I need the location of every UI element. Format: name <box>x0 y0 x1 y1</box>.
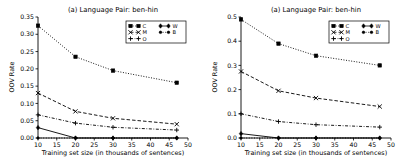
y-tick-label: 0.4 <box>227 37 237 44</box>
y-tick-label: 0.30 <box>20 30 34 37</box>
x-tick-label: 35 <box>331 141 339 148</box>
x-tick-label: 10 <box>34 141 42 148</box>
data-point-dot <box>362 31 365 34</box>
legend-label-O: O <box>346 36 350 42</box>
y-tick-label: 0.10 <box>20 100 34 107</box>
data-point-dot <box>277 137 280 140</box>
legend-left: CWMBO <box>126 21 186 43</box>
x-tick-label: 40 <box>350 141 358 148</box>
data-point-square <box>137 24 140 27</box>
x-tick-label: 35 <box>128 141 136 148</box>
legend-right: CWMBO <box>329 21 389 43</box>
legend-label-M: M <box>346 29 350 35</box>
legend-label-W: W <box>376 23 381 29</box>
chart-panel-left: (a) Language Pair: ben-hin 0.000.050.100… <box>0 0 203 161</box>
data-point-square <box>74 55 77 58</box>
x-tick-label: 25 <box>293 141 301 148</box>
chart-title-left: (a) Language Pair: ben-hin <box>68 6 158 14</box>
data-point-square <box>175 81 178 84</box>
y-tick-label: 0.2 <box>227 86 237 93</box>
data-point-dot <box>159 31 162 34</box>
x-tick-label: 20 <box>275 141 283 148</box>
data-point-dot <box>175 137 178 140</box>
x-tick-label: 40 <box>147 141 155 148</box>
data-point-square <box>340 24 343 27</box>
legend-label-C: C <box>143 23 147 29</box>
x-tick-label: 15 <box>53 141 61 148</box>
data-point-square <box>129 24 132 27</box>
legend-label-M: M <box>143 29 147 35</box>
y-tick-label: 0.35 <box>20 13 34 20</box>
data-point-square <box>332 24 335 27</box>
chart-svg-right: (a) Language Pair: ben-hin 0.00.10.20.30… <box>203 0 406 161</box>
chart-svg-left: (a) Language Pair: ben-hin 0.000.050.100… <box>0 0 203 161</box>
data-point-dot <box>112 137 115 140</box>
legend-label-C: C <box>346 23 350 29</box>
data-point-square <box>36 24 39 27</box>
data-point-square <box>239 18 242 21</box>
y-tick-label: 0.0 <box>227 134 237 141</box>
y-axis-title-left: OOV Rate <box>8 61 16 92</box>
chart-title-right: (a) Language Pair: ben-hin <box>271 6 361 14</box>
legend-label-O: O <box>143 36 147 42</box>
x-axis-title-right: Training set size (in thousands of sente… <box>244 149 387 157</box>
data-point-square <box>277 42 280 45</box>
x-tick-label: 30 <box>312 141 320 148</box>
y-tick-label: 0.15 <box>20 82 34 89</box>
data-point-dot <box>240 137 243 140</box>
x-tick-label: 50 <box>184 141 192 148</box>
data-point-dot <box>370 31 373 34</box>
data-point-dot <box>315 137 318 140</box>
data-point-dot <box>74 137 77 140</box>
data-point-square <box>378 64 381 67</box>
y-tick-label: 0.00 <box>20 134 34 141</box>
x-tick-label: 30 <box>109 141 117 148</box>
y-tick-label: 0.5 <box>227 13 237 20</box>
x-tick-label: 45 <box>165 141 173 148</box>
x-tick-label: 15 <box>256 141 264 148</box>
x-tick-label: 45 <box>368 141 376 148</box>
figure-container: (a) Language Pair: ben-hin 0.000.050.100… <box>0 0 406 161</box>
x-tick-label: 20 <box>72 141 80 148</box>
data-point-square <box>111 69 114 72</box>
data-point-square <box>314 54 317 57</box>
legend-label-W: W <box>173 23 178 29</box>
x-tick-label: 25 <box>90 141 98 148</box>
y-tick-label: 0.05 <box>20 117 34 124</box>
x-tick-label: 10 <box>237 141 245 148</box>
x-tick-label: 50 <box>387 141 395 148</box>
x-axis-title-left: Training set size (in thousands of sente… <box>41 149 184 157</box>
y-tick-label: 0.1 <box>227 110 237 117</box>
data-point-dot <box>167 31 170 34</box>
y-axis-title-right: OOV Rate <box>211 61 219 92</box>
y-tick-label: 0.25 <box>20 48 34 55</box>
y-tick-label: 0.20 <box>20 65 34 72</box>
chart-panel-right: (a) Language Pair: ben-hin 0.00.10.20.30… <box>203 0 406 161</box>
data-point-dot <box>37 137 40 140</box>
legend-label-B: B <box>173 29 177 35</box>
y-tick-label: 0.3 <box>227 62 237 69</box>
data-point-dot <box>378 137 381 140</box>
legend-label-B: B <box>376 29 380 35</box>
